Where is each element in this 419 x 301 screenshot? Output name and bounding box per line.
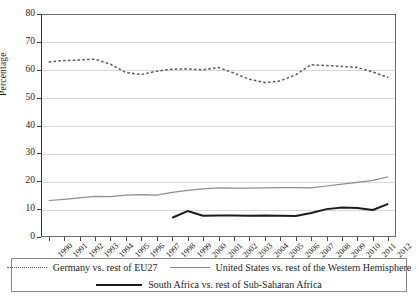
y-tick-label: 80 bbox=[11, 9, 35, 19]
legend-entry-south-africa: South Africa vs. rest of Sub-Saharan Afr… bbox=[96, 279, 322, 290]
x-tick-mark bbox=[342, 237, 343, 241]
x-tick-mark bbox=[172, 237, 173, 241]
x-tick-label: 2001 bbox=[226, 242, 244, 260]
series-line-1 bbox=[49, 59, 389, 82]
legend: Germany vs. rest of EU27 United States v… bbox=[11, 258, 407, 292]
x-tick-mark bbox=[188, 237, 189, 241]
line-chart: Percentage 01020304050607080 19901991199… bbox=[0, 0, 419, 301]
x-tick-label: 1991 bbox=[72, 242, 90, 260]
x-tick-label: 2000 bbox=[211, 242, 229, 260]
x-tick-mark bbox=[373, 237, 374, 241]
x-tick-mark bbox=[49, 237, 50, 241]
x-tick-mark bbox=[265, 237, 266, 241]
legend-row-2: South Africa vs. rest of Sub-Saharan Afr… bbox=[12, 276, 406, 293]
y-tick-label: 30 bbox=[11, 148, 35, 158]
y-tick-label: 20 bbox=[11, 176, 35, 186]
x-tick-label: 2003 bbox=[257, 242, 275, 260]
legend-label-south-africa: South Africa vs. rest of Sub-Saharan Afr… bbox=[148, 279, 322, 290]
y-tick-label: 50 bbox=[11, 93, 35, 103]
x-tick-label: 2008 bbox=[334, 242, 352, 260]
x-tick-mark bbox=[249, 237, 250, 241]
y-tick-mark bbox=[37, 237, 41, 238]
x-tick-label: 2007 bbox=[319, 242, 337, 260]
y-tick-label: 70 bbox=[11, 37, 35, 47]
x-tick-label: 2005 bbox=[288, 242, 306, 260]
legend-row-1: Germany vs. rest of EU27 United States v… bbox=[12, 259, 406, 276]
y-tick-label: 0 bbox=[11, 232, 35, 242]
gray-line-swatch bbox=[170, 267, 210, 268]
y-tick-label: 60 bbox=[11, 65, 35, 75]
x-tick-mark bbox=[141, 237, 142, 241]
x-tick-mark bbox=[95, 237, 96, 241]
x-tick-mark bbox=[110, 237, 111, 241]
x-tick-label: 2011 bbox=[381, 242, 398, 259]
series-line-2 bbox=[49, 177, 389, 201]
x-tick-label: 1996 bbox=[149, 242, 167, 260]
x-tick-mark bbox=[219, 237, 220, 241]
x-tick-mark bbox=[126, 237, 127, 241]
x-tick-label: 2012 bbox=[396, 242, 414, 260]
x-tick-mark bbox=[280, 237, 281, 241]
legend-label-united-states: United States vs. rest of the Western He… bbox=[216, 262, 412, 273]
x-tick-mark bbox=[327, 237, 328, 241]
legend-entry-germany: Germany vs. rest of EU27 bbox=[7, 262, 158, 273]
dotted-line-swatch bbox=[7, 267, 47, 268]
x-tick-mark bbox=[357, 237, 358, 241]
x-tick-mark bbox=[80, 237, 81, 241]
x-tick-mark bbox=[203, 237, 204, 241]
series-line-3 bbox=[172, 204, 388, 218]
legend-label-germany: Germany vs. rest of EU27 bbox=[53, 262, 158, 273]
x-tick-mark bbox=[64, 237, 65, 241]
y-tick-label: 40 bbox=[11, 121, 35, 131]
x-tick-mark bbox=[388, 237, 389, 241]
x-tick-mark bbox=[234, 237, 235, 241]
x-tick-label: 1994 bbox=[118, 242, 136, 260]
x-tick-mark bbox=[311, 237, 312, 241]
x-tick-mark bbox=[157, 237, 158, 241]
x-tick-label: 1998 bbox=[180, 242, 198, 260]
series-layer bbox=[41, 14, 396, 237]
y-tick-label: 10 bbox=[11, 204, 35, 214]
x-tick-mark bbox=[296, 237, 297, 241]
black-line-swatch bbox=[96, 284, 142, 286]
y-axis-title: Percentage bbox=[0, 0, 8, 96]
legend-entry-united-states: United States vs. rest of the Western He… bbox=[170, 262, 412, 273]
